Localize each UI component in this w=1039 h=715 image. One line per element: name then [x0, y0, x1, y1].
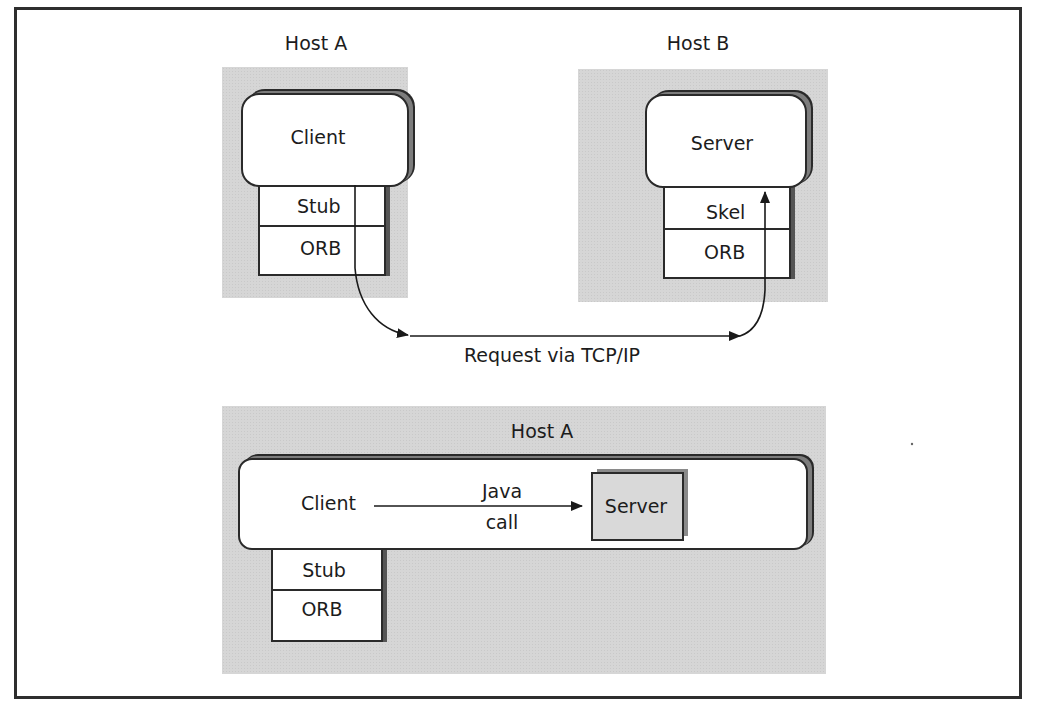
- arrows-overlay: [0, 0, 1039, 715]
- request-curve-right: [740, 192, 765, 336]
- speck: [911, 443, 913, 445]
- request-curve-left: [355, 185, 408, 335]
